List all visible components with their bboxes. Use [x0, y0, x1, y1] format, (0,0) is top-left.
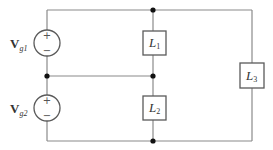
load-l1: L1 — [143, 31, 166, 55]
source-label-vg1: Vg1 — [10, 36, 27, 53]
junction-dot-icon — [150, 73, 155, 78]
wires — [47, 10, 252, 141]
circuit-diagram: + − Vg1 + − Vg2 L1 L2 L3 — [0, 0, 273, 150]
junction-dot-icon — [150, 138, 155, 143]
voltage-source-vg2: + − Vg2 — [10, 95, 60, 121]
voltage-source-vg1: + − Vg1 — [10, 30, 60, 56]
minus-sign: − — [43, 110, 51, 121]
load-l3: L3 — [240, 63, 264, 88]
load-l2: L2 — [143, 96, 166, 120]
junction-dot-icon — [44, 73, 49, 78]
junction-dot-icon — [150, 7, 155, 12]
plus-sign: + — [43, 95, 51, 106]
source-label-vg2: Vg2 — [10, 101, 27, 118]
minus-sign: − — [43, 45, 51, 56]
plus-sign: + — [43, 30, 51, 41]
